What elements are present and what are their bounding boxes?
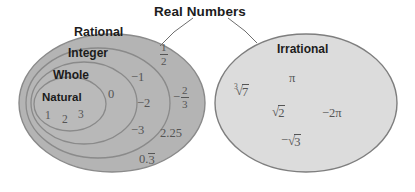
rational-member-neg-two-thirds: − 2 3 [173,85,189,110]
diagram-title: Real Numbers [154,5,246,19]
natural-member-3: 3 [78,109,84,121]
integer-member-neg3: −3 [131,124,144,137]
one-half-denominator: 2 [160,54,168,67]
integer-set-label: Integer [68,47,108,59]
one-half-numerator: 1 [160,42,168,54]
irrational-member-neg-sqrt-3: − √ 3 [281,132,301,148]
integer-member-neg1: −1 [131,71,144,84]
irrational-set-label: Irrational [277,43,328,55]
neg-two-thirds-sign: − [173,91,180,104]
irrational-member-neg-2pi: −2π [322,107,342,120]
irrational-member-sqrt-2: √ 2 [272,103,285,119]
rational-member-2-25: 2.25 [160,127,182,140]
whole-set-label: Whole [53,69,89,81]
neg-sqrt-3-radicand: 3 [294,134,301,149]
repeating-decimal-digit: 3 [148,153,154,167]
natural-set-label: Natural [42,92,82,104]
natural-member-1: 1 [45,110,51,122]
neg-sqrt-3-sign: − [281,134,288,147]
rational-member-one-half: 1 2 [160,42,168,67]
sqrt-2-radicand: 2 [278,105,285,120]
cube-root-index: 3 [234,83,238,91]
natural-set-ellipse [34,77,106,131]
repeating-decimal-prefix: 0. [139,153,148,166]
rational-set-label: Rational [74,26,123,39]
rational-member-repeating-third: 0. 3 [139,150,155,167]
irrational-member-pi: π [289,72,295,85]
neg-two-thirds-numerator: 2 [181,85,189,97]
real-numbers-venn-diagram: Real Numbers Rational Integer Whole Natu… [0,0,415,192]
whole-member-0: 0 [108,88,114,101]
natural-member-2: 2 [62,114,68,126]
leader-line-to-irrational [228,18,257,43]
irrational-member-cube-root-7: 3 √ 7 [234,82,249,98]
integer-member-neg2: −2 [137,97,150,110]
neg-two-thirds-denominator: 3 [181,97,189,110]
cube-root-radicand: 7 [242,84,249,99]
